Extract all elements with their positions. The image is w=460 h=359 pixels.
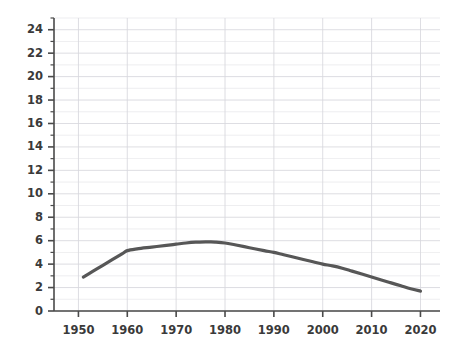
x-tick-label: 1960	[111, 323, 143, 337]
x-tick-label: 2020	[404, 323, 436, 337]
x-tick-label: 2010	[356, 323, 388, 337]
x-tick-label: 1950	[62, 323, 94, 337]
line-chart: 024681012141618202224 195019601970198019…	[0, 0, 460, 359]
y-tick-label: 14	[27, 139, 43, 153]
y-tick-label: 4	[35, 257, 43, 271]
y-tick-label: 24	[27, 22, 43, 36]
chart-container: 024681012141618202224 195019601970198019…	[0, 0, 460, 359]
chart-background	[0, 0, 460, 359]
y-tick-label: 6	[35, 233, 43, 247]
x-tick-label: 2000	[307, 323, 339, 337]
y-tick-label: 18	[27, 93, 43, 107]
y-tick-label: 2	[35, 280, 43, 294]
x-tick-label: 1990	[258, 323, 290, 337]
y-tick-label: 16	[27, 116, 43, 130]
y-tick-label: 0	[35, 304, 43, 318]
y-tick-label: 20	[27, 69, 43, 83]
y-tick-label: 8	[35, 210, 43, 224]
y-tick-label: 22	[27, 46, 43, 60]
y-tick-label: 10	[27, 186, 43, 200]
x-tick-label: 1970	[160, 323, 192, 337]
x-tick-label: 1980	[209, 323, 241, 337]
y-tick-label: 12	[27, 163, 43, 177]
